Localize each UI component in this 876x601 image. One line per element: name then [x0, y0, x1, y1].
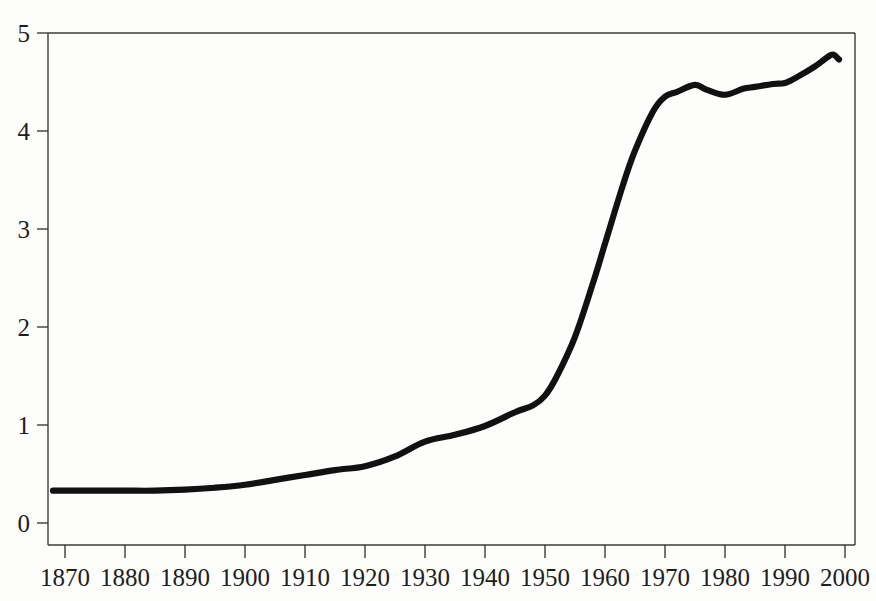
- y-tick-label: 1: [18, 412, 31, 439]
- x-tick-label: 1960: [580, 564, 630, 591]
- x-tick-label: 1910: [280, 564, 330, 591]
- x-tick-label: 1920: [340, 564, 390, 591]
- y-tick-label: 0: [18, 510, 31, 537]
- y-tick-label: 4: [18, 118, 31, 145]
- y-axis-ticks: 012345: [18, 20, 49, 537]
- x-tick-label: 1870: [40, 564, 90, 591]
- x-tick-label: 1880: [100, 564, 150, 591]
- x-axis-ticks: 1870188018901900191019201930194019501960…: [40, 545, 870, 591]
- data-series-line: [53, 55, 839, 491]
- x-tick-label: 1940: [460, 564, 510, 591]
- x-tick-label: 1890: [160, 564, 210, 591]
- x-tick-label: 1990: [760, 564, 810, 591]
- axis-frame: [48, 33, 855, 545]
- x-tick-label: 1980: [700, 564, 750, 591]
- x-tick-label: 1900: [220, 564, 270, 591]
- x-tick-label: 1970: [640, 564, 690, 591]
- figure-container: 012345 187018801890190019101920193019401…: [0, 0, 876, 601]
- x-tick-label: 1950: [520, 564, 570, 591]
- x-tick-label: 2000: [820, 564, 870, 591]
- x-tick-label: 1930: [400, 564, 450, 591]
- y-tick-label: 3: [18, 216, 31, 243]
- y-tick-label: 5: [18, 20, 31, 47]
- y-tick-label: 2: [18, 314, 31, 341]
- line-chart-plot: 012345 187018801890190019101920193019401…: [0, 0, 876, 601]
